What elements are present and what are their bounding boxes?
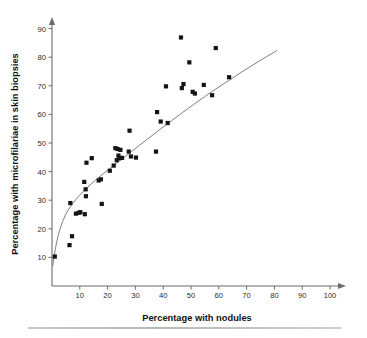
y-tick-label: 40 [38,168,46,177]
y-tick-label: 90 [38,25,46,34]
data-point [193,91,197,95]
data-point [84,194,88,198]
data-point [227,75,231,79]
x-tick-label: 90 [298,291,306,300]
data-points-group [53,35,232,258]
data-point [68,201,72,205]
x-tick-label: 10 [76,291,84,300]
y-axis-ticks: 102030405060708090 [38,25,52,263]
data-point [112,163,116,167]
y-tick-label: 10 [38,253,46,262]
figure-container: 102030405060708090 102030405060708090100… [0,0,367,338]
y-axis-title: Percentage with microfilariae in skin bi… [10,53,20,255]
data-point [179,35,183,39]
y-tick-label: 50 [38,139,46,148]
data-point [82,180,86,184]
x-tick-label: 60 [215,291,223,300]
data-point [214,46,218,50]
data-point [53,254,57,258]
data-point [90,156,94,160]
x-axis-title: Percentage with nodules [142,313,252,323]
y-tick-label: 60 [38,110,46,119]
fitted-curve [53,50,277,266]
data-point [155,110,159,114]
data-point [129,154,133,158]
data-point [67,243,71,247]
data-point [187,60,191,64]
y-axis-arrow [49,17,55,25]
x-tick-label: 30 [131,291,139,300]
data-point [70,234,74,238]
x-tick-label: 70 [242,291,250,300]
data-point [118,148,122,152]
x-tick-label: 100 [324,291,337,300]
data-point [100,202,104,206]
x-axis-ticks: 102030405060708090100 [76,286,337,300]
data-point [84,161,88,165]
data-point [78,210,82,214]
data-point [127,129,131,133]
y-tick-label: 20 [38,225,46,234]
data-point [159,119,163,123]
data-point [120,156,124,160]
x-tick-label: 50 [187,291,195,300]
data-point [108,169,112,173]
x-tick-label: 40 [159,291,167,300]
data-point [127,149,131,153]
data-point [180,86,184,90]
x-tick-label: 80 [270,291,278,300]
data-point [154,149,158,153]
data-point [84,187,88,191]
y-tick-label: 30 [38,196,46,205]
data-point [166,121,170,125]
x-tick-label: 20 [103,291,111,300]
y-tick-label: 70 [38,82,46,91]
data-point [99,177,103,181]
data-point [181,82,185,86]
data-point [202,83,206,87]
data-point [164,84,168,88]
footer-divider [28,327,341,329]
data-point [134,155,138,159]
axes-group [49,17,346,289]
data-point [210,93,214,97]
x-axis-arrow [338,283,346,289]
data-point [83,212,87,216]
scatter-plot: 102030405060708090 102030405060708090100… [0,0,367,338]
y-tick-label: 80 [38,53,46,62]
